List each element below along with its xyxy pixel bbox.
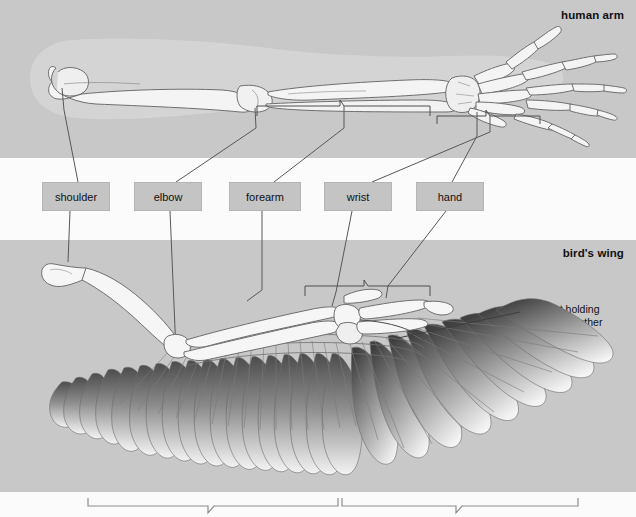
ligament-annotation: ligament holding feathers together <box>523 303 602 329</box>
label-box-elbow[interactable]: elbow <box>134 182 202 211</box>
label-box-wrist[interactable]: wrist <box>324 182 392 211</box>
bird-wing-title: bird's wing <box>563 247 624 259</box>
human-arm-panel <box>0 0 636 158</box>
human-arm-title: human arm <box>561 9 624 21</box>
label-text-wrist: wrist <box>347 191 370 203</box>
label-text-forearm: forearm <box>246 191 284 203</box>
label-box-hand[interactable]: hand <box>416 182 484 211</box>
label-text-hand: hand <box>438 191 462 203</box>
label-text-shoulder: shoulder <box>55 191 97 203</box>
bird-wing-panel <box>0 240 636 492</box>
label-box-forearm[interactable]: forearm <box>229 182 301 211</box>
bottom-region-braces <box>88 498 578 513</box>
label-box-shoulder[interactable]: shoulder <box>42 182 110 211</box>
figure-canvas: human arm bird's wing ligament holding f… <box>0 0 636 517</box>
label-text-elbow: elbow <box>154 191 183 203</box>
